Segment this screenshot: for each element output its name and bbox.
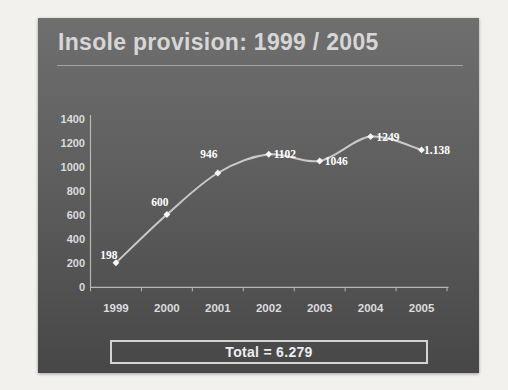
data-point-label: 1102 (274, 148, 297, 160)
y-axis-tick-label: 600 (67, 209, 85, 221)
data-point-marker (316, 158, 323, 165)
data-point-marker (265, 151, 272, 158)
x-axis-category-label: 2005 (409, 302, 435, 314)
data-point-label: 1046 (325, 155, 348, 167)
slide: Insole provision: 1999 / 2005 0200400600… (38, 18, 479, 373)
data-point-label: 1249 (377, 131, 400, 143)
data-point-label: 1.138 (424, 144, 450, 156)
y-axis-tick-label: 1200 (61, 137, 85, 149)
x-axis-category-label: 2004 (358, 302, 384, 314)
line-chart: 0200400600800100012001400199920002001200… (38, 18, 479, 373)
y-axis-tick-label: 1000 (61, 161, 85, 173)
y-axis-tick-label: 800 (67, 185, 85, 197)
data-point-label: 600 (151, 196, 169, 208)
x-axis-category-label: 1999 (103, 302, 129, 314)
x-axis-category-label: 2003 (307, 302, 333, 314)
x-axis-category-label: 2001 (205, 302, 231, 314)
data-point-label: 198 (100, 249, 118, 261)
data-point-label: 946 (200, 148, 218, 160)
total-box: Total = 6.279 (110, 340, 428, 364)
x-axis-category-label: 2000 (154, 302, 180, 314)
y-axis-tick-label: 400 (67, 233, 85, 245)
y-axis-tick-label: 0 (79, 281, 85, 293)
data-point-marker (367, 133, 374, 140)
x-axis-category-label: 2002 (256, 302, 282, 314)
y-axis-tick-label: 1400 (61, 113, 85, 125)
total-label: Total = 6.279 (225, 344, 312, 360)
y-axis-tick-label: 200 (67, 257, 85, 269)
